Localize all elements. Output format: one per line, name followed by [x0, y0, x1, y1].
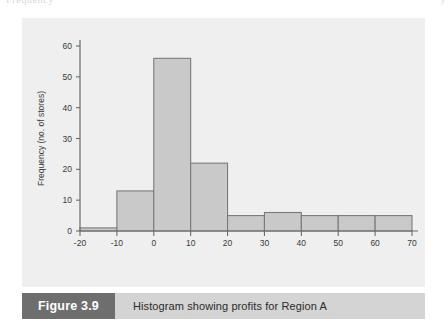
- x-axis-tick-label: 60: [370, 238, 380, 248]
- figure-number-block: Figure 3.9: [22, 293, 115, 319]
- histogram-svg: 0102030405060-20-10010203040506070Freque…: [22, 18, 425, 287]
- histogram-bar: [117, 191, 154, 231]
- histogram-plot-area: 0102030405060-20-10010203040506070Freque…: [22, 18, 425, 287]
- x-axis-tick-label: -10: [111, 238, 124, 248]
- y-axis-tick-label: 0: [67, 226, 72, 236]
- x-axis-tick-label: 70: [407, 238, 417, 248]
- y-axis-tick-label: 60: [63, 41, 73, 51]
- y-axis-tick-label: 10: [63, 195, 73, 205]
- x-axis-tick-label: 40: [297, 238, 307, 248]
- y-axis-tick-label: 40: [63, 103, 73, 113]
- y-axis-tick-label: 20: [63, 164, 73, 174]
- histogram-bar: [301, 216, 338, 231]
- figure-panel: 0102030405060-20-10010203040506070Freque…: [22, 18, 425, 287]
- histogram-bar: [264, 213, 301, 232]
- x-axis-tick-label: 20: [223, 238, 233, 248]
- top-bleed-right-text: ): [441, 0, 445, 5]
- histogram-bar: [228, 216, 265, 231]
- x-axis-tick-label: 0: [151, 238, 156, 248]
- histogram-bar: [338, 216, 375, 231]
- page-top-bleed-text: Frequency ): [0, 0, 448, 14]
- x-axis-tick-label: 30: [260, 238, 270, 248]
- y-axis-title: Frequency (no. of stores): [36, 91, 46, 186]
- x-axis-tick-label: 50: [333, 238, 343, 248]
- top-bleed-left-text: Frequency: [6, 0, 54, 5]
- figure-number-label: Figure 3.9: [38, 299, 99, 313]
- histogram-bar: [154, 58, 191, 231]
- histogram-bar: [191, 163, 228, 231]
- histogram-bar: [375, 216, 412, 231]
- y-axis-tick-label: 30: [63, 134, 73, 144]
- figure-caption-bar: Figure 3.9 Histogram showing profits for…: [22, 293, 425, 319]
- y-axis-tick-label: 50: [63, 72, 73, 82]
- figure-caption-text: Histogram showing profits for Region A: [133, 300, 327, 312]
- x-axis-tick-label: 10: [186, 238, 196, 248]
- x-axis-tick-label: -20: [74, 238, 87, 248]
- figure-caption-block: Histogram showing profits for Region A: [115, 293, 425, 319]
